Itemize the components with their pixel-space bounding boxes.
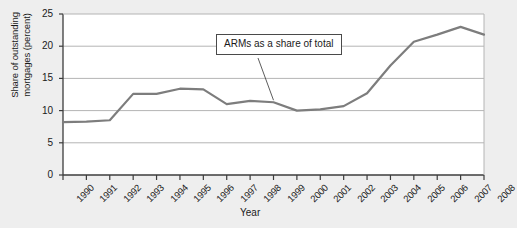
y-axis-tick-label: 0 [31,169,53,180]
y-axis-tick-label: 15 [31,72,53,83]
y-axis-tick-label: 20 [31,40,53,51]
x-axis-title: Year [240,207,260,218]
annotation-label-arms-share: ARMs as a share of total [216,34,342,55]
y-axis-tick-label: 25 [31,8,53,19]
y-axis-tick-label: 5 [31,137,53,148]
y-axis-tick-label: 10 [31,105,53,116]
x-axis-ticks [63,175,484,180]
